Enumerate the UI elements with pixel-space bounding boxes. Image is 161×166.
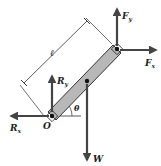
label-theta: θ [74, 103, 80, 113]
label-fx: Fx [144, 58, 155, 69]
pivot-point [50, 114, 54, 118]
dimension-line [24, 21, 87, 83]
label-rx: Rx [9, 123, 21, 134]
label-length: ℓ [50, 48, 54, 58]
label-fy: Fy [121, 11, 132, 23]
extension-line-bottom [20, 85, 44, 116]
label-w: W [93, 154, 104, 164]
top-end-point [115, 47, 119, 51]
extension-line-top [86, 18, 112, 44]
free-body-diagram: Fy Fx Ry Rx W O θ ℓ [0, 0, 161, 166]
label-ry: Ry [56, 76, 68, 88]
label-o: O [43, 121, 51, 131]
center-of-mass-point [85, 79, 89, 83]
